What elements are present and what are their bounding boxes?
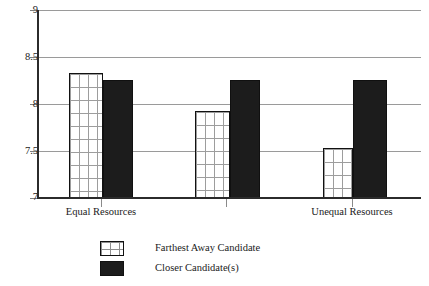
legend-item-closer-candidate[interactable]: Closer Candidate(s) [100, 258, 260, 278]
ytick-label-8: 8 [12, 99, 38, 110]
ytick-label-9: 9 [12, 5, 38, 16]
gridline-8-5 [38, 57, 421, 58]
xtick-label-equal-resources: Equal Resources [41, 206, 161, 218]
legend-swatch-hatch-icon [100, 241, 124, 256]
y-axis-line [37, 10, 39, 199]
legend-label-closer-candidate: Closer Candidate(s) [155, 262, 239, 274]
x-axis-line [38, 197, 421, 199]
legend-swatch-solid-icon [100, 261, 124, 276]
bar-closer-middle[interactable] [230, 80, 260, 199]
bar-farthest-away-equal-resources[interactable] [69, 73, 103, 199]
bar-closer-equal-resources[interactable] [103, 80, 133, 199]
ytick-label-7-5: 7.5 [12, 146, 38, 157]
bar-farthest-away-middle[interactable] [195, 111, 230, 199]
bar-farthest-away-unequal-resources[interactable] [323, 148, 353, 199]
legend-item-farthest-away-candidate[interactable]: Farthest Away Candidate [100, 238, 260, 258]
bar-chart-figure: 9 8.5 8 7.5 7 Equal Resources [0, 0, 429, 286]
chart-legend: Farthest Away Candidate Closer Candidate… [100, 238, 260, 278]
plot-area: 9 8.5 8 7.5 7 Equal Resources [0, 0, 429, 220]
ytick-label-8-5: 8.5 [12, 52, 38, 63]
gridline-9 [38, 10, 421, 11]
xtick-mark-middle [226, 199, 227, 207]
bar-closer-unequal-resources[interactable] [353, 80, 387, 199]
xtick-label-unequal-resources: Unequal Resources [292, 206, 412, 218]
legend-label-farthest-away-candidate: Farthest Away Candidate [155, 242, 260, 254]
ytick-label-7: 7 [12, 192, 38, 203]
